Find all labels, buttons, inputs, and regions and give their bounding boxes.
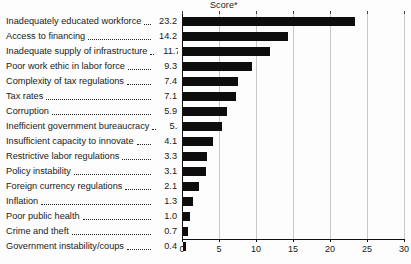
category-value: 0.4 [151, 239, 178, 254]
tick-mark-top [404, 11, 405, 14]
category-value: 2.1 [151, 179, 178, 194]
category-label: Government instability/coups [0, 239, 127, 254]
category-value: 23.2 [151, 14, 178, 29]
category-value: 1.0 [151, 209, 178, 224]
category-row: Policy instability3.1 [0, 164, 178, 179]
category-value: 0.7 [151, 224, 178, 239]
category-label: Poor work ethic in labor force [0, 59, 128, 74]
tick-label: 25 [362, 244, 372, 254]
bar [183, 62, 252, 71]
category-value: 1.3 [151, 194, 178, 209]
bar-row [183, 224, 405, 239]
category-label: Complexity of tax regulations [0, 74, 127, 89]
category-value: 14.2 [151, 29, 178, 44]
tick-mark-top [182, 11, 183, 14]
bar [183, 122, 222, 131]
dot-leader [52, 107, 151, 117]
category-label: Crime and theft [0, 224, 72, 239]
category-value: 11.7 [154, 44, 178, 59]
bar [183, 137, 213, 146]
category-row: Insufficient capacity to innovate4.1 [0, 134, 178, 149]
dot-leader [152, 122, 156, 132]
tick-label: 0 [179, 244, 184, 254]
dot-leader [127, 77, 151, 87]
category-label: Insufficient capacity to innovate [0, 134, 137, 149]
tick-mark-bottom [330, 239, 331, 242]
category-row: Inadequate supply of infrastructure11.7 [0, 44, 178, 59]
tick-mark-top [256, 11, 257, 14]
bar-row [183, 59, 405, 74]
category-label: Inflation [0, 194, 41, 209]
category-row: Inflation1.3 [0, 194, 178, 209]
category-label: Restrictive labor regulations [0, 149, 122, 164]
tick-label: 15 [288, 244, 298, 254]
bar-row [183, 164, 405, 179]
category-row: Corruption5.9 [0, 104, 178, 119]
axis-title-text: Score* [182, 0, 238, 10]
bar [183, 32, 288, 41]
bar-row [183, 149, 405, 164]
tick-mark-bottom [256, 239, 257, 242]
tick-mark-top [219, 11, 220, 14]
plot-area: 051015202530 [182, 14, 404, 240]
bar-row [183, 89, 405, 104]
category-label: Inadequately educated workforce [0, 14, 144, 29]
bar-row [183, 209, 405, 224]
category-value: 7.1 [151, 89, 178, 104]
bar [183, 167, 206, 176]
category-row: Poor public health1.0 [0, 209, 178, 224]
dot-leader [83, 212, 151, 222]
category-label: Inadequate supply of infrastructure [0, 44, 150, 59]
category-value: 3.1 [151, 164, 178, 179]
tick-mark-top [330, 11, 331, 14]
tick-mark-bottom [404, 239, 405, 242]
tick-mark-bottom [367, 239, 368, 242]
category-value: 7.4 [151, 74, 178, 89]
dot-leader [74, 167, 151, 177]
tick-label: 10 [251, 244, 261, 254]
bar-row [183, 44, 405, 59]
bar [183, 92, 236, 101]
bar-row [183, 14, 405, 29]
category-row: Crime and theft0.7 [0, 224, 178, 239]
axis-title: Score* [182, 0, 408, 10]
category-label: Inefficient government bureaucracy [0, 119, 152, 134]
tick-mark-top [367, 11, 368, 14]
dot-leader [46, 92, 151, 102]
bar-row [183, 29, 405, 44]
tick-mark-bottom [182, 239, 183, 242]
bar [183, 182, 199, 191]
category-value: 9.3 [151, 59, 178, 74]
category-row: Complexity of tax regulations7.4 [0, 74, 178, 89]
category-label: Foreign currency regulations [0, 179, 125, 194]
bar-row [183, 74, 405, 89]
tick-mark-bottom [293, 239, 294, 242]
dot-leader [41, 197, 151, 207]
tick-label: 30 [399, 244, 409, 254]
tick-label: 5 [216, 244, 221, 254]
dot-leader [144, 17, 151, 27]
bar-row [183, 119, 405, 134]
category-value: 4.1 [151, 134, 178, 149]
category-label: Poor public health [0, 209, 83, 224]
bar-chart: Score* Inadequately educated workforce23… [0, 0, 411, 264]
dot-leader [128, 62, 151, 72]
dot-leader [72, 227, 151, 237]
bar-row [183, 104, 405, 119]
bar [183, 47, 270, 56]
bar-row [183, 194, 405, 209]
category-row: Inefficient government bureaucracy5.3 [0, 119, 178, 134]
category-row: Government instability/coups0.4 [0, 239, 178, 254]
category-label-column: Inadequately educated workforce23.2Acces… [0, 14, 178, 254]
bar [183, 212, 190, 221]
category-row: Foreign currency regulations2.1 [0, 179, 178, 194]
bar [183, 77, 238, 86]
tick-mark-top [293, 11, 294, 14]
dot-leader [127, 242, 151, 252]
bar [183, 197, 193, 206]
bar [183, 17, 355, 26]
dot-leader [122, 152, 151, 162]
category-row: Access to financing14.2 [0, 29, 178, 44]
bar [183, 107, 227, 116]
category-label: Access to financing [0, 29, 88, 44]
